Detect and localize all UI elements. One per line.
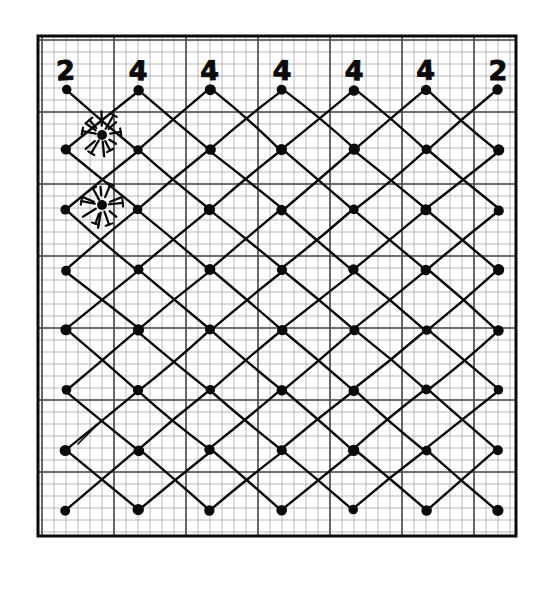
lattice-node [61, 266, 71, 276]
lattice-node [60, 205, 70, 215]
starburst-tick [82, 127, 83, 134]
lattice-diagram: 2444442 [0, 0, 545, 590]
lattice-node [421, 384, 431, 394]
starburst-tick [120, 128, 121, 135]
lattice-node [493, 144, 504, 155]
lattice-node [421, 505, 431, 515]
degree-label: 4 [128, 55, 148, 87]
starburst-ray [105, 141, 110, 150]
starburst-ray [83, 209, 96, 217]
starburst-tick [107, 149, 113, 152]
starburst-center-node [97, 130, 107, 140]
stray-pencil-marks [78, 424, 98, 444]
degree-label: 4 [344, 55, 364, 87]
lattice-node [276, 144, 287, 155]
lattice-node [277, 325, 287, 335]
starburst-center-node [97, 200, 107, 210]
lattice-node [204, 264, 215, 275]
degree-label: 4 [272, 55, 291, 86]
starburst-ray [104, 212, 109, 225]
lattice-node [349, 205, 359, 215]
lattice-node [276, 205, 287, 216]
lattice-node [348, 505, 358, 515]
lattice-node [421, 85, 431, 95]
lattice-node [60, 506, 70, 516]
lattice-node [349, 325, 359, 335]
lattice-node [277, 445, 287, 455]
degree-labels: 2444442 [56, 55, 508, 87]
lattice-node [492, 505, 503, 516]
lattice-node [348, 264, 358, 274]
lattice-node [61, 144, 71, 154]
lattice-node [133, 145, 142, 154]
starburst-ray [109, 203, 123, 204]
frame-rect [38, 36, 516, 536]
lattice-node [349, 85, 360, 96]
starburst-ray [110, 132, 121, 134]
lattice-node [422, 144, 432, 154]
lattice-node [277, 265, 287, 275]
lattice-node [133, 205, 143, 215]
lattice-node [349, 144, 360, 155]
lattice-node [277, 385, 288, 396]
lattice-node [133, 445, 144, 456]
lattice-node [133, 504, 144, 515]
starburst-upper [82, 111, 122, 156]
lattice-node [422, 446, 432, 456]
lattice-node [60, 324, 71, 335]
starburst-tick [106, 223, 113, 225]
lattice-node [206, 385, 216, 395]
lattice-node [493, 264, 504, 275]
starburst-tick [81, 198, 82, 205]
degree-label: 4 [200, 55, 220, 87]
lattice-node [133, 385, 143, 395]
degree-label: 2 [56, 55, 76, 87]
lattice-node [493, 445, 503, 455]
lattice-node [133, 85, 143, 95]
lattice-node [494, 385, 504, 395]
starburst-ray [109, 211, 116, 217]
starburst-ray [101, 187, 102, 195]
lattice-node [204, 505, 214, 515]
starburst-ray [110, 197, 123, 202]
lattice-node [205, 144, 216, 155]
lattice-node [421, 265, 431, 275]
degree-label: 2 [489, 55, 508, 86]
lattice-node [349, 385, 360, 396]
outer-frame-border [38, 36, 516, 536]
lattice-node [493, 325, 504, 336]
lattice-node [62, 385, 72, 395]
lattice-node [420, 204, 431, 215]
lattice-node [348, 445, 359, 456]
starburst-tick [122, 199, 123, 206]
lattice-node [133, 324, 144, 335]
lattice-node [205, 324, 215, 334]
lattice-node [134, 265, 144, 275]
lattice-node [422, 325, 432, 335]
lattice-node [277, 85, 287, 95]
starburst-ray [109, 140, 116, 144]
lattice-node [204, 444, 214, 454]
lattice-node [494, 206, 504, 216]
lattice-node [60, 445, 71, 456]
degree-label: 4 [416, 55, 436, 87]
figure-root: 2444442 [0, 0, 545, 590]
stray-stroke-lower-left [78, 424, 98, 444]
lattice-node [204, 204, 215, 215]
lattice-node [276, 505, 287, 516]
starburst-ray [103, 142, 105, 157]
starburst-ray [105, 184, 110, 197]
lattice-node [62, 85, 71, 94]
starburst-ray [93, 188, 99, 199]
